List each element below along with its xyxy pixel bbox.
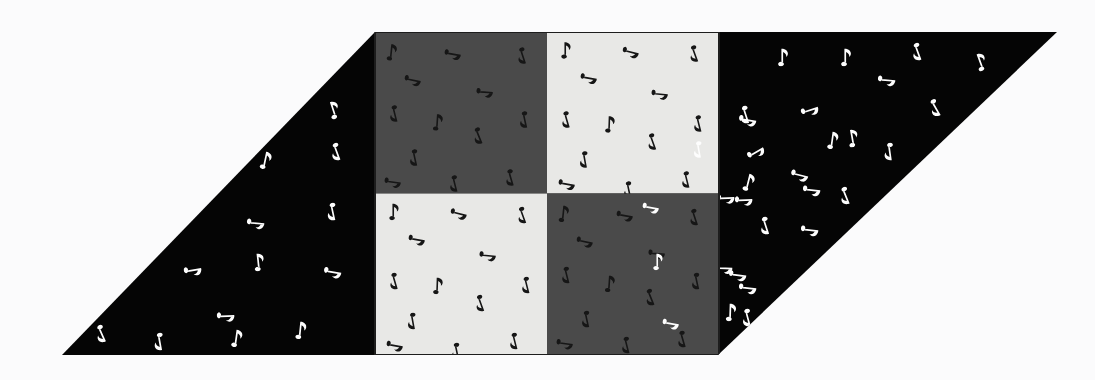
bottom-right-dark-tile-bg: [547, 194, 719, 356]
bottom-right-dark-tile: [547, 194, 719, 356]
checkerboard-inset: [375, 32, 719, 360]
bottom-left-light-tile: [375, 194, 547, 361]
stimulus-svg: [0, 0, 1095, 380]
top-right-light-tile: [547, 32, 719, 199]
stimulus-canvas: [0, 0, 1095, 380]
top-left-dark-tile-bg: [375, 32, 547, 194]
top-left-dark-tile: [375, 32, 547, 194]
